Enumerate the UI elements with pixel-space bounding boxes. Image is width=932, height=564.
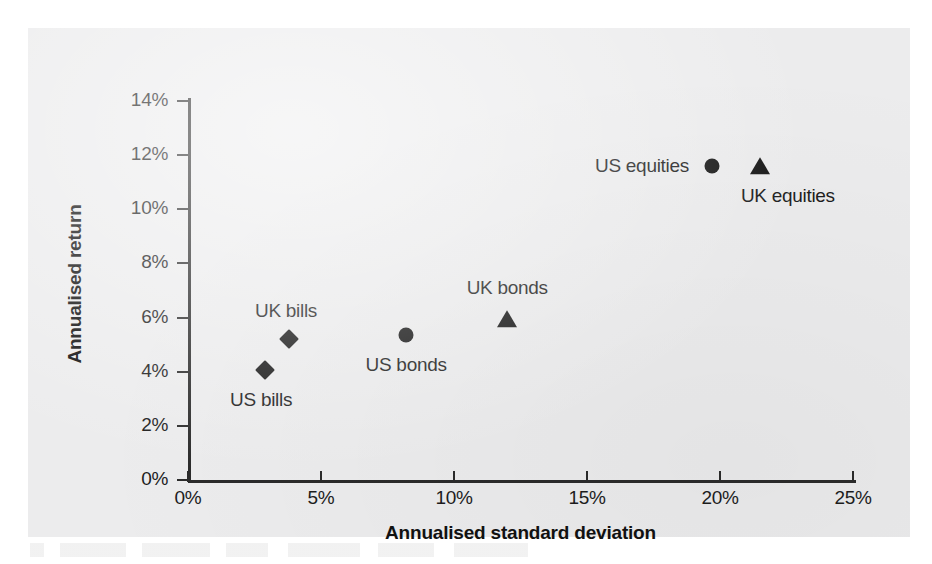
y-tick-mark bbox=[177, 425, 188, 427]
data-label-us-bills: US bills bbox=[230, 389, 292, 411]
y-tick-mark bbox=[177, 262, 188, 264]
x-axis-line bbox=[188, 480, 856, 483]
y-tick-label: 12% bbox=[106, 143, 168, 165]
y-tick-label: 8% bbox=[106, 251, 168, 273]
x-tick-label: 25% bbox=[813, 487, 893, 509]
y-tick-label: 10% bbox=[106, 197, 168, 219]
y-tick-mark bbox=[177, 371, 188, 373]
y-tick-label: 2% bbox=[106, 414, 168, 436]
data-point-uk-bonds bbox=[497, 310, 517, 327]
data-point-us-bonds bbox=[399, 328, 414, 343]
x-tick-label: 0% bbox=[148, 487, 228, 509]
x-tick-label: 10% bbox=[414, 487, 494, 509]
x-axis-title: Annualised standard deviation bbox=[188, 522, 853, 544]
plot-area: US billsUK billsUS bondsUK bondsUS equit… bbox=[188, 101, 853, 480]
y-tick-mark bbox=[177, 154, 188, 156]
data-label-us-equities: US equities bbox=[595, 155, 689, 177]
figure-panel: 0%2%4%6%8%10%12%14% 0%5%10%15%20%25% US … bbox=[28, 28, 910, 537]
y-axis-title: Annualised return bbox=[64, 174, 86, 394]
data-point-uk-bills bbox=[279, 329, 299, 349]
data-point-us-equities bbox=[705, 158, 720, 173]
data-label-us-bonds: US bonds bbox=[366, 354, 447, 376]
y-tick-label: 4% bbox=[106, 360, 168, 382]
data-point-us-bills bbox=[255, 360, 275, 380]
data-label-uk-equities: UK equities bbox=[741, 185, 835, 207]
data-label-uk-bills: UK bills bbox=[255, 300, 317, 322]
data-point-uk-equities bbox=[750, 157, 770, 174]
y-tick-label: 14% bbox=[106, 89, 168, 111]
y-tick-mark bbox=[177, 208, 188, 210]
y-tick-mark bbox=[177, 317, 188, 319]
x-tick-label: 5% bbox=[281, 487, 361, 509]
x-tick-label: 20% bbox=[680, 487, 760, 509]
scan-artifact bbox=[30, 543, 630, 557]
y-tick-label: 6% bbox=[106, 306, 168, 328]
y-tick-mark bbox=[177, 100, 188, 102]
data-label-uk-bonds: UK bonds bbox=[467, 277, 548, 299]
x-tick-label: 15% bbox=[547, 487, 627, 509]
